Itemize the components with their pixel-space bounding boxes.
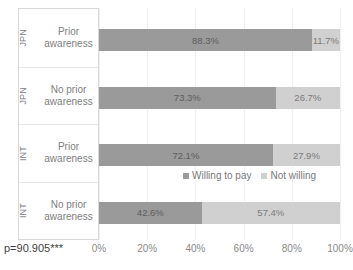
category-label: No prior awareness [43, 199, 98, 223]
category-row: INT No prior awareness [19, 182, 98, 240]
category-row: INT Prior awareness [19, 124, 98, 182]
p-value-annotation: p=90.905*** [4, 242, 63, 254]
category-label-line1: No prior [51, 84, 87, 95]
axis-tick-label: 80% [282, 243, 302, 254]
bar-segment-not-willing[interactable]: 57.4% [202, 202, 340, 224]
category-label-line2: awareness [43, 96, 94, 108]
bar-row: 42.6% 57.4% [99, 202, 340, 224]
bar-segment-willing-to-pay[interactable]: 72.1% [99, 144, 273, 166]
bar-segment-not-willing[interactable]: 27.9% [273, 144, 340, 166]
axis-tick-label: 100% [327, 243, 353, 254]
category-label: No prior awareness [43, 84, 98, 108]
bar-segment-willing-to-pay[interactable]: 73.3% [99, 87, 276, 109]
legend-label: Not willing [270, 170, 316, 181]
group-label: JPN [19, 87, 43, 105]
category-label-line1: Prior [58, 26, 79, 37]
bar-row: 72.1% 27.9% [99, 144, 340, 166]
category-label-line2: awareness [43, 153, 94, 165]
axis-tick-label: 0% [92, 243, 106, 254]
legend-label: Willing to pay [192, 170, 251, 181]
axis-tick-label: 40% [185, 243, 205, 254]
category-label: Prior awareness [43, 141, 98, 165]
category-label-line2: awareness [43, 211, 94, 223]
category-label-line1: Prior [58, 141, 79, 152]
category-label-line2: awareness [43, 38, 94, 50]
group-label: INT [19, 146, 43, 161]
chart-legend: Willing to pay Not willing [183, 170, 316, 181]
category-label-line1: No prior [51, 199, 87, 210]
bar-segment-not-willing[interactable]: 26.7% [276, 87, 340, 109]
axis-tick-label: 20% [137, 243, 157, 254]
legend-swatch-icon [183, 173, 189, 179]
category-label: Prior awareness [43, 26, 98, 50]
bar-segment-not-willing[interactable]: 11.7% [312, 29, 340, 51]
axis-tick-label: 60% [234, 243, 254, 254]
bar-row: 88.3% 11.7% [99, 29, 340, 51]
legend-item-not-willing[interactable]: Not willing [261, 170, 316, 181]
legend-item-willing-to-pay[interactable]: Willing to pay [183, 170, 251, 181]
category-axis: JPN Prior awareness JPN No prior awarene… [18, 8, 99, 240]
category-row: JPN No prior awareness [19, 67, 98, 125]
legend-swatch-icon [261, 173, 267, 179]
bar-segment-willing-to-pay[interactable]: 42.6% [99, 202, 202, 224]
group-label: INT [19, 203, 43, 218]
plot-area: 88.3% 11.7% 73.3% 26.7% 72.1% 27.9% 42.6… [99, 8, 340, 240]
group-label: JPN [19, 29, 43, 47]
category-row: JPN Prior awareness [19, 9, 98, 67]
value-axis: 0% 20% 40% 60% 80% 100% [99, 243, 340, 259]
bar-segment-willing-to-pay[interactable]: 88.3% [99, 29, 312, 51]
gridline [340, 8, 341, 240]
bar-row: 73.3% 26.7% [99, 87, 340, 109]
